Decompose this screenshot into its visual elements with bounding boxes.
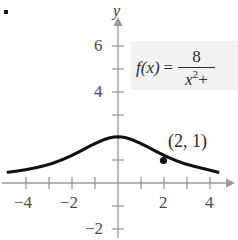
y-tick-label-6: 6: [94, 37, 103, 54]
y-tick-label-minus2: −2: [85, 220, 103, 237]
x-tick-label-4: 4: [205, 194, 214, 211]
point-marker: [160, 157, 167, 164]
formula-denominator-base: x: [185, 70, 193, 89]
x-axis-arrow-icon: [226, 178, 235, 187]
graph-figure: y −4 −2 2 4 6 4 −2 (2, 1) f(x) = 8 x2+: [0, 0, 238, 240]
y-axis-label: y: [113, 3, 120, 19]
function-formula: f(x) = 8 x2+: [136, 48, 215, 89]
x-tick-label-minus2: −2: [60, 194, 78, 211]
formula-function-name: f(x): [136, 58, 160, 78]
x-tick-label-minus4: −4: [14, 194, 32, 211]
y-tick-label-4: 4: [94, 83, 103, 100]
formula-fraction: 8 x2+: [178, 48, 215, 89]
formula-denominator-operator: +: [198, 70, 208, 89]
coordinate-plot: [0, 0, 238, 240]
formula-denominator: x2+: [183, 68, 210, 89]
x-tick-label-2: 2: [159, 194, 168, 211]
formula-numerator: 8: [178, 48, 215, 67]
formula-equals-sign: =: [164, 58, 174, 78]
point-annotation-label: (2, 1): [168, 132, 207, 150]
